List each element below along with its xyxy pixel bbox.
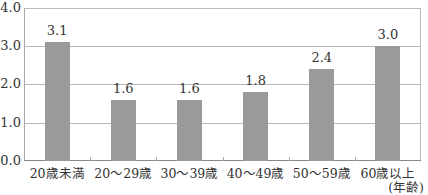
gridline-2 (24, 84, 421, 85)
bar (111, 100, 136, 161)
bar-value-label: 3.1 (37, 24, 77, 38)
bar-chart: 4.0 3.0 2.0 1.0 0.0 3.120歳未満1.620～29歳1.6… (0, 0, 428, 195)
bar (177, 100, 202, 161)
y-tick-label: 1.0 (0, 116, 21, 130)
bar (375, 46, 400, 161)
bar-value-label: 1.6 (169, 82, 209, 96)
x-tick-mark (289, 157, 290, 161)
x-tick-mark (90, 157, 91, 161)
y-tick-label: 2.0 (0, 77, 21, 91)
x-axis-unit-label: (年齢) (388, 181, 424, 195)
bar-value-label: 3.0 (368, 28, 408, 42)
x-tick-mark (156, 157, 157, 161)
y-tick-label: 0.0 (0, 154, 21, 168)
bar (309, 69, 334, 161)
x-tick-label: 60歳以上 (355, 167, 421, 181)
gridline-3 (24, 46, 421, 47)
gridline-1 (24, 123, 421, 124)
x-tick-label: 20歳未満 (24, 167, 90, 181)
bar-value-label: 1.6 (103, 82, 143, 96)
x-tick-mark (223, 157, 224, 161)
bar (45, 42, 70, 161)
bar-value-label: 1.8 (236, 74, 276, 88)
x-tick-label: 50～59歳 (289, 167, 355, 181)
x-tick-mark (355, 157, 356, 161)
x-tick-label: 40～49歳 (223, 167, 289, 181)
y-tick-label: 4.0 (0, 1, 21, 15)
bar-value-label: 2.4 (302, 51, 342, 65)
x-tick-label: 20～29歳 (90, 167, 156, 181)
y-tick-label: 3.0 (0, 39, 21, 53)
bar (243, 92, 268, 161)
x-tick-label: 30～39歳 (156, 167, 222, 181)
